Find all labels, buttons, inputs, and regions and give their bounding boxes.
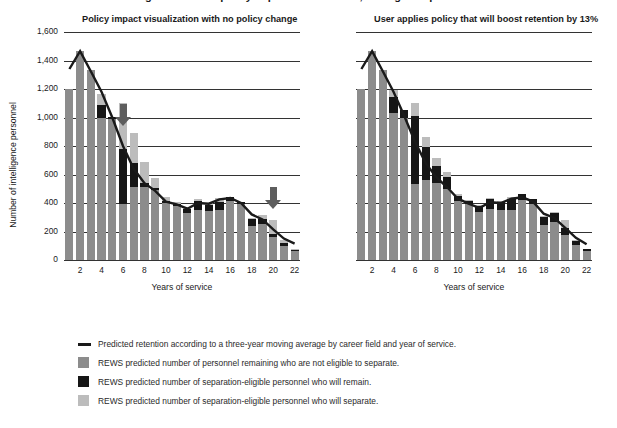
legend-item: Predicted retention according to a three… [78,334,598,353]
x-tick-label: 8 [434,265,439,275]
legend-label: REWS predicted number of personnel remai… [98,358,399,368]
x-tick-label: 10 [161,265,170,275]
x-tick-label: 18 [247,265,256,275]
retention-line-right [356,32,592,260]
arrow-head [115,117,131,126]
chart-right: 246810121416182022 Years of service [356,32,592,260]
axis-line-x [64,260,300,261]
legend-label: REWS predicted number of separation-elig… [98,396,378,406]
y-tick-label: 0 [53,255,58,263]
chart-left: 246810121416182022 Years of service [64,32,300,260]
x-tick-label: 2 [370,265,375,275]
x-axis-ticks-left: 246810121416182022 [64,265,300,279]
down-arrow-annotation [115,104,131,126]
y-tick-label: 1,400 [37,56,58,64]
x-tick-label: 12 [475,265,484,275]
panel-title-left: Policy impact visualization with no poli… [82,14,297,24]
legend-color-swatch [78,395,89,406]
legend-color-swatch [78,357,89,368]
y-tick-label: 1,000 [37,113,58,121]
x-tick-label: 20 [269,265,278,275]
legend-label: REWS predicted number of separation-elig… [98,377,371,387]
x-tick-label: 16 [518,265,527,275]
x-tick-label: 4 [99,265,104,275]
x-tick-label: 8 [142,265,147,275]
axis-line-x [356,260,592,261]
x-tick-label: 20 [561,265,570,275]
legend: Predicted retention according to a three… [78,334,598,410]
x-axis-ticks-right: 246810121416182022 [356,265,592,279]
arrow-shaft [120,104,127,117]
arrow-shaft [270,187,277,200]
x-tick-label: 16 [226,265,235,275]
figure-title: Figure 3. REWS policy impact visualizati… [0,0,617,2]
x-tick-label: 22 [582,265,591,275]
y-tick-label: 800 [44,141,58,149]
x-axis-label-left: Years of service [64,282,300,292]
x-tick-label: 18 [539,265,548,275]
y-axis-ticks: 1,6001,4001,2001,0008006004002000 [18,0,58,428]
x-tick-label: 4 [391,265,396,275]
legend-color-swatch [78,376,89,387]
y-axis-label: Number of intelligence personnel [8,60,18,270]
legend-item: REWS predicted number of separation-elig… [78,391,598,410]
x-tick-label: 14 [204,265,213,275]
x-tick-label: 2 [78,265,83,275]
legend-label: Predicted retention according to a three… [98,339,456,349]
arrow-head [265,200,281,209]
y-tick-label: 1,200 [37,84,58,92]
y-tick-label: 1,600 [37,27,58,35]
down-arrow-annotation [265,187,281,209]
y-tick-label: 400 [44,198,58,206]
y-tick-label: 200 [44,227,58,235]
x-tick-label: 6 [121,265,126,275]
x-tick-label: 12 [183,265,192,275]
legend-line-swatch [78,338,89,349]
x-tick-label: 22 [290,265,299,275]
x-tick-label: 6 [413,265,418,275]
legend-item: REWS predicted number of separation-elig… [78,372,598,391]
legend-item: REWS predicted number of personnel remai… [78,353,598,372]
figure-root: Figure 3. REWS policy impact visualizati… [0,0,617,428]
y-tick-label: 600 [44,170,58,178]
retention-line-left [64,32,300,260]
x-axis-label-right: Years of service [356,282,592,292]
x-tick-label: 10 [453,265,462,275]
x-tick-label: 14 [496,265,505,275]
panel-title-right: User applies policy that will boost rete… [374,14,598,24]
